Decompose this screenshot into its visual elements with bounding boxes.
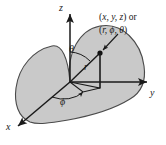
cartesian-variables: x, y, z: [102, 12, 123, 22]
spherical-coordinates-figure: z y x θ ϕ r (x, y, z) or (r, ϕ, θ): [0, 0, 166, 145]
spherical-suffix: ): [124, 25, 127, 35]
axis-label-y: y: [150, 88, 154, 98]
axis-label-x: x: [6, 122, 10, 132]
radius-label-r: r: [84, 62, 88, 72]
figure-canvas: [0, 0, 166, 145]
coordinates-spherical-line: (r, ϕ, θ): [99, 24, 137, 37]
shaded-region: [16, 25, 145, 123]
spherical-variables: r, ϕ, θ: [102, 25, 124, 35]
angle-label-theta: θ: [69, 44, 74, 54]
angle-label-phi: ϕ: [60, 97, 65, 107]
coordinates-cartesian-line: (x, y, z) or: [99, 11, 137, 24]
cartesian-suffix: ) or: [123, 12, 136, 22]
point-coordinates-label: (x, y, z) or (r, ϕ, θ): [99, 11, 137, 37]
axis-label-z: z: [59, 3, 63, 13]
